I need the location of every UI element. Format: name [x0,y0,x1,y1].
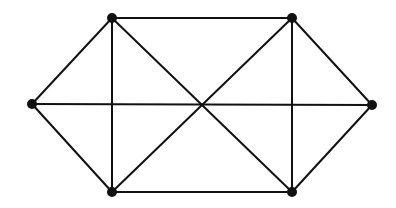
edge-BR-R [292,105,372,192]
node-L [27,99,37,109]
graph-diagram [0,0,396,208]
edge-L-TL [32,18,112,104]
edge-L-BL [32,104,112,192]
edge-TR-R [292,18,372,105]
node-BL [107,187,117,197]
node-R [367,100,377,110]
node-TR [287,13,297,23]
edge-group [32,18,372,192]
node-BR [287,187,297,197]
node-TL [107,13,117,23]
